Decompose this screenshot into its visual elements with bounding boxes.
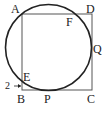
circle	[6, 5, 92, 91]
square-abcd	[22, 14, 92, 90]
arrow-head-icon	[18, 84, 21, 88]
label-a: A	[11, 2, 20, 16]
label-p: P	[44, 92, 51, 106]
label-b: B	[17, 92, 25, 106]
label-e: E	[23, 70, 30, 84]
diagram-canvas: A D F Q E 2 B P C	[0, 0, 107, 116]
label-c: C	[87, 92, 95, 106]
label-q: Q	[93, 42, 102, 56]
label-d: D	[86, 2, 95, 16]
geometry-diagram: A D F Q E 2 B P C	[0, 0, 107, 116]
label-2: 2	[5, 80, 10, 91]
label-f: F	[66, 15, 73, 29]
